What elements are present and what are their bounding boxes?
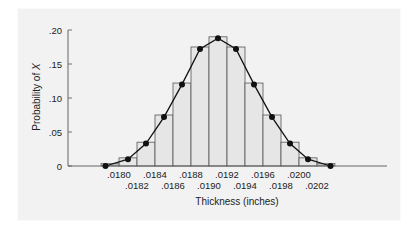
data-point: [215, 35, 221, 41]
y-tick-label: .15: [49, 59, 62, 70]
data-point: [251, 81, 257, 87]
data-point: [143, 141, 149, 147]
histogram-bar: [209, 37, 227, 166]
data-point: [125, 156, 131, 162]
x-tick-label: .0184: [143, 169, 167, 180]
histogram-bar: [155, 115, 173, 166]
x-axis-title: Thickness (inches): [195, 196, 278, 207]
x-tick-label: .0198: [269, 180, 293, 191]
y-axis-ticks: 0.05.10.15.20: [49, 25, 72, 172]
data-point: [269, 114, 275, 120]
x-tick-label: .0202: [305, 180, 329, 191]
x-tick-label: .0194: [233, 180, 257, 191]
data-point: [233, 46, 239, 52]
y-tick-label: 0: [57, 161, 62, 172]
histogram-bar: [191, 47, 209, 166]
x-tick-label: .0200: [287, 169, 311, 180]
x-tick-label: .0190: [197, 180, 221, 191]
x-tick-label: .0186: [161, 180, 185, 191]
data-point: [161, 114, 167, 120]
data-point: [287, 141, 293, 147]
data-point: [328, 163, 334, 169]
x-tick-label: .0180: [107, 169, 131, 180]
x-tick-label: .0192: [215, 169, 239, 180]
data-point: [197, 46, 203, 52]
y-tick-label: .05: [49, 127, 62, 138]
histogram-bar: [227, 47, 245, 166]
y-axis-title: Probability of X: [31, 63, 42, 131]
y-tick-label: .20: [49, 25, 62, 36]
x-tick-label: .0182: [125, 180, 149, 191]
histogram-bars: [101, 37, 335, 166]
y-tick-label: .10: [49, 93, 62, 104]
x-tick-label: .0196: [251, 169, 275, 180]
histogram-chart: 0.05.10.15.20 .0180.0184.0188.0192.0196.…: [0, 0, 417, 231]
x-axis-ticks: .0180.0184.0188.0192.0196.0200.0182.0186…: [107, 169, 329, 191]
data-point: [305, 156, 311, 162]
x-tick-label: .0188: [179, 169, 203, 180]
histogram-bar: [263, 115, 281, 166]
data-point: [179, 81, 185, 87]
